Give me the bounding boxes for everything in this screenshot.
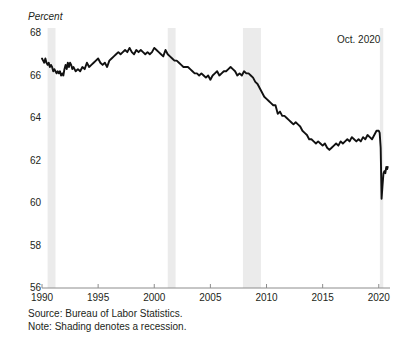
x-axis-tick-label: 1995 [78,292,118,303]
y-axis-tick-label: 68 [17,27,41,38]
y-axis-tick-label: 62 [17,155,41,166]
shading-note: Note: Shading denotes a recession. [28,320,186,333]
y-axis-tick-label: 60 [17,197,41,208]
x-axis-tick-label: 2000 [134,292,174,303]
x-axis-tick-label: 1990 [22,292,62,303]
x-axis-tick-label: 2020 [359,292,399,303]
recession-shading-band [168,28,176,288]
y-axis-tick-label: 64 [17,112,41,123]
data-series-line [42,48,388,199]
y-axis-tick-label: 66 [17,70,41,81]
source-note: Source: Bureau of Labor Statistics. [28,307,186,320]
y-axis-tick-label: 58 [17,240,41,251]
recession-shading-band [243,28,261,288]
x-axis-tick-label: 2005 [190,292,230,303]
x-axis-tick-label: 2010 [247,292,287,303]
x-axis-tick-label: 2015 [303,292,343,303]
last-point-annotation: Oct. 2020 [337,34,380,45]
chart-footnotes: Source: Bureau of Labor Statistics. Note… [28,307,186,333]
